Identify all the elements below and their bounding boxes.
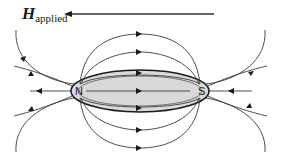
north-pole-label: N xyxy=(75,85,83,97)
field-lines-svg: N S xyxy=(0,0,281,157)
south-pole-label: S xyxy=(198,85,205,97)
applied-field-arrow xyxy=(64,11,214,17)
magnetized-ellipsoid-diagram: Happlied xyxy=(0,0,281,157)
